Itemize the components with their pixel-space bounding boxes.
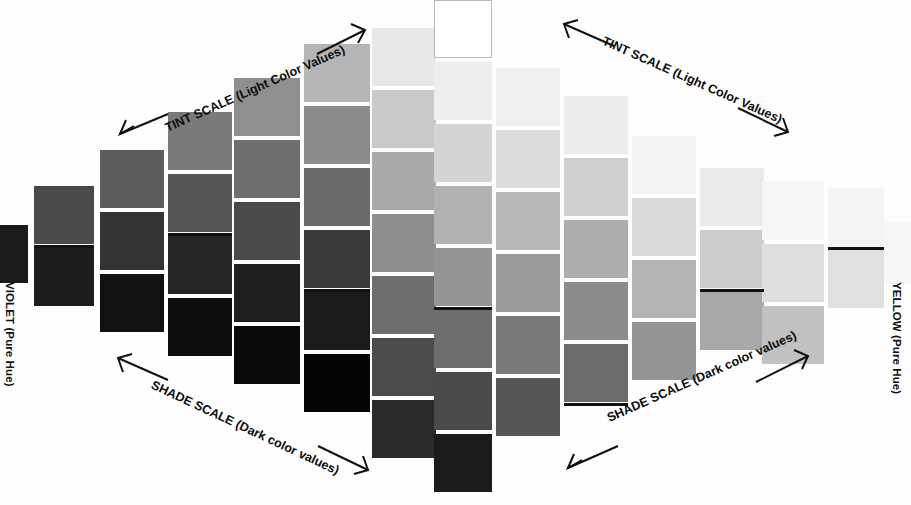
value-midline-rule [304, 289, 370, 292]
color-swatch [100, 150, 164, 208]
value-midline-rule [828, 247, 884, 250]
color-swatch [434, 0, 492, 58]
color-swatch [434, 434, 492, 492]
swatch-column [234, 78, 300, 384]
color-swatch [234, 326, 300, 384]
color-swatch [496, 316, 560, 374]
value-scale-figure: VIOLET (Pure Hue) YELLOW (Pure Hue) TINT… [0, 0, 911, 505]
color-swatch [632, 136, 696, 194]
color-swatch [168, 174, 232, 232]
swatch-column [372, 28, 436, 458]
hue-label-violet: VIOLET (Pure Hue) [4, 282, 16, 387]
swatch-column [564, 96, 628, 402]
color-swatch [100, 274, 164, 332]
color-swatch [632, 260, 696, 318]
color-swatch [372, 214, 436, 272]
hue-label-violet-text: VIOLET (Pure Hue) [4, 282, 16, 387]
color-swatch [372, 276, 436, 334]
color-swatch [0, 225, 28, 283]
value-midline-rule [168, 233, 232, 236]
value-midline-rule [700, 289, 764, 292]
color-swatch [496, 192, 560, 250]
color-swatch [700, 168, 764, 226]
hue-label-yellow-text: YELLOW (Pure Hue) [891, 282, 903, 394]
color-swatch [564, 158, 628, 216]
color-swatch [372, 152, 436, 210]
color-swatch [762, 182, 824, 240]
color-swatch [434, 124, 492, 182]
color-swatch [496, 254, 560, 312]
color-swatch [372, 90, 436, 148]
color-swatch [434, 372, 492, 430]
swatch-column [0, 225, 28, 283]
hue-label-yellow: YELLOW (Pure Hue) [891, 282, 903, 394]
swatch-column [700, 168, 764, 350]
value-midline-rule [434, 307, 492, 310]
color-swatch [632, 198, 696, 256]
color-swatch [434, 248, 492, 306]
color-swatch [234, 202, 300, 260]
color-swatch [372, 400, 436, 458]
color-swatch [828, 250, 884, 308]
color-swatch [496, 130, 560, 188]
color-swatch [434, 186, 492, 244]
color-swatch [234, 264, 300, 322]
swatch-column [632, 136, 696, 380]
swatch-column [884, 222, 911, 284]
color-swatch [564, 344, 628, 402]
color-swatch [372, 338, 436, 396]
color-swatch [304, 168, 370, 226]
color-swatch [700, 230, 764, 288]
color-swatch [762, 244, 824, 302]
value-midline-rule [34, 245, 94, 248]
color-swatch [884, 222, 911, 284]
swatch-column [304, 44, 370, 412]
color-swatch [304, 354, 370, 412]
color-swatch [34, 186, 94, 244]
color-swatch [100, 212, 164, 270]
color-swatch [304, 292, 370, 350]
swatch-column [100, 150, 164, 332]
color-swatch [304, 230, 370, 288]
color-swatch [564, 220, 628, 278]
color-swatch [632, 322, 696, 380]
color-swatch [496, 378, 560, 436]
color-swatch [372, 28, 436, 86]
swatch-column [496, 68, 560, 436]
color-swatch [564, 96, 628, 154]
color-swatch [168, 236, 232, 294]
color-swatch [434, 310, 492, 368]
color-swatch [700, 292, 764, 350]
color-swatch [168, 298, 232, 356]
color-swatch [564, 282, 628, 340]
color-swatch [828, 188, 884, 246]
color-swatch [434, 62, 492, 120]
color-swatch [304, 106, 370, 164]
color-swatch [34, 248, 94, 306]
color-swatch [496, 68, 560, 126]
swatch-column [434, 0, 492, 492]
color-swatch [234, 140, 300, 198]
